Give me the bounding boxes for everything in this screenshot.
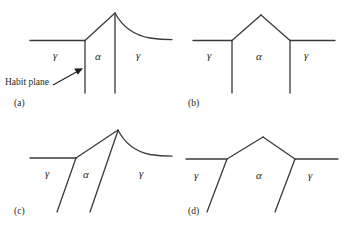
- panel-c-drawing: [0, 117, 178, 235]
- panel-c-caption: (c): [14, 207, 25, 217]
- figure-container: γ α γ Habit plane (a) γ α γ (b): [0, 0, 353, 235]
- panel-a-right-gamma-label: γ: [136, 50, 140, 61]
- panel-d-alpha-label: α: [256, 170, 262, 181]
- habit-plane-right-c: [90, 131, 118, 213]
- panel-d: γ α γ (d): [175, 117, 353, 235]
- panel-a: γ α γ Habit plane (a): [0, 0, 178, 118]
- panel-c-right-gamma-label: γ: [139, 168, 143, 179]
- gamma-right-curve-a: [115, 13, 172, 40]
- panel-a-caption: (a): [14, 99, 25, 109]
- panel-d-caption: (d): [188, 207, 199, 217]
- alpha-left-slope-a: [85, 13, 115, 41]
- panel-b-left-gamma-label: γ: [207, 50, 211, 61]
- habit-plane-left-c: [57, 158, 76, 212]
- panel-c-alpha-label: α: [83, 169, 89, 180]
- habit-plane-arrow-a: [53, 68, 83, 85]
- alpha-left-slope-b: [232, 15, 261, 41]
- panel-a-drawing: [0, 0, 178, 118]
- alpha-right-slope-d: [263, 137, 295, 159]
- panel-a-left-gamma-label: γ: [53, 50, 57, 61]
- panel-c: γ α γ (c): [0, 117, 178, 235]
- panel-b-caption: (b): [188, 99, 199, 109]
- habit-plane-label: Habit plane: [5, 78, 49, 88]
- alpha-right-slope-b: [261, 15, 290, 41]
- panel-d-drawing: [175, 117, 353, 235]
- panel-b: γ α γ (b): [175, 0, 353, 118]
- panel-a-alpha-label: α: [95, 51, 101, 62]
- panel-b-right-gamma-label: γ: [304, 50, 308, 61]
- alpha-left-slope-c: [76, 130, 118, 158]
- panel-b-drawing: [175, 0, 353, 118]
- panel-b-alpha-label: α: [256, 51, 262, 62]
- habit-plane-right-d: [275, 159, 295, 212]
- habit-plane-left-d: [207, 159, 227, 212]
- panel-d-right-gamma-label: γ: [308, 170, 312, 181]
- panel-d-left-gamma-label: γ: [194, 170, 198, 181]
- panel-c-left-gamma-label: γ: [45, 168, 49, 179]
- alpha-left-slope-d: [227, 137, 263, 159]
- gamma-right-curve-c: [118, 130, 172, 156]
